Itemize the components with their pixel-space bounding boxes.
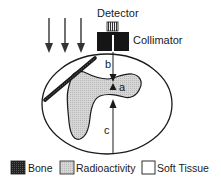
label-a: a bbox=[119, 81, 126, 93]
detector-label: Detector bbox=[97, 7, 139, 19]
collimator bbox=[97, 32, 129, 51]
collimator-label: Collimator bbox=[133, 34, 183, 46]
label-c: c bbox=[104, 124, 110, 136]
incoming-radiation-arrows bbox=[45, 18, 85, 53]
legend-item-bone: Bone bbox=[11, 161, 53, 174]
bone-swatch bbox=[11, 161, 25, 174]
legend-item-soft-tissue: Soft Tissue bbox=[142, 161, 209, 174]
legend-label-soft-tissue: Soft Tissue bbox=[157, 162, 209, 174]
legend-item-radioactivity: Radioactivity bbox=[60, 161, 136, 174]
legend-label-bone: Bone bbox=[28, 162, 53, 174]
soft-tissue-swatch bbox=[142, 161, 155, 174]
attenuation-diagram: Detector Collimator b a c Bone Radioacti… bbox=[0, 0, 221, 184]
legend-label-radioactivity: Radioactivity bbox=[76, 162, 136, 174]
radioactivity-swatch bbox=[60, 161, 74, 174]
arrow-down-icon bbox=[45, 18, 53, 53]
legend: Bone Radioactivity Soft Tissue bbox=[11, 161, 209, 174]
arrow-down-icon bbox=[61, 18, 69, 53]
arrow-down-icon bbox=[77, 18, 85, 53]
detector bbox=[107, 22, 118, 31]
label-b: b bbox=[105, 58, 111, 70]
